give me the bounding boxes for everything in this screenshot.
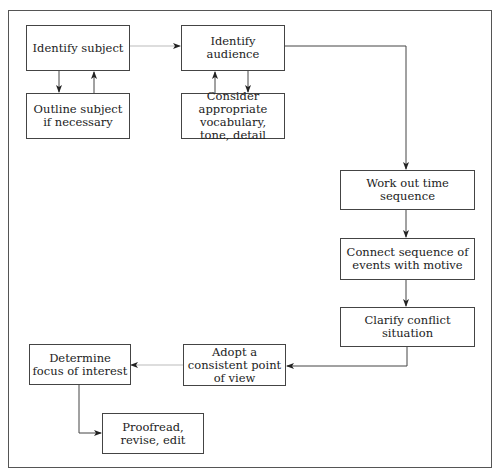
node-proofread: Proofread, revise, edit xyxy=(102,413,204,454)
node-label: Proofread, revise, edit xyxy=(105,421,201,447)
node-label: Connect sequence of events with motive xyxy=(343,246,472,272)
node-determine-focus: Determine focus of interest xyxy=(29,344,131,385)
node-label: Determine focus of interest xyxy=(32,352,128,378)
node-label: Outline subject if necessary xyxy=(29,103,127,129)
node-adopt-pov: Adopt a consistent point of view xyxy=(183,344,286,386)
node-outline-subject: Outline subject if necessary xyxy=(26,93,130,139)
node-label: Identify subject xyxy=(33,42,124,55)
node-label: Work out time sequence xyxy=(343,177,472,203)
node-clarify-conflict: Clarify conflict situation xyxy=(340,307,475,347)
node-identify-audience: Identify audience xyxy=(181,25,285,71)
node-work-out-time: Work out time sequence xyxy=(340,170,475,210)
node-label: Clarify conflict situation xyxy=(343,314,472,340)
node-identify-subject: Identify subject xyxy=(26,25,130,71)
node-consider-vocabulary: Consider appropriate vocabulary, tone, d… xyxy=(181,93,285,139)
node-label: Consider appropriate vocabulary, tone, d… xyxy=(184,90,282,142)
node-label: Adopt a consistent point of view xyxy=(186,346,283,385)
node-label: Identify audience xyxy=(184,35,282,61)
node-connect-sequence: Connect sequence of events with motive xyxy=(340,238,475,280)
